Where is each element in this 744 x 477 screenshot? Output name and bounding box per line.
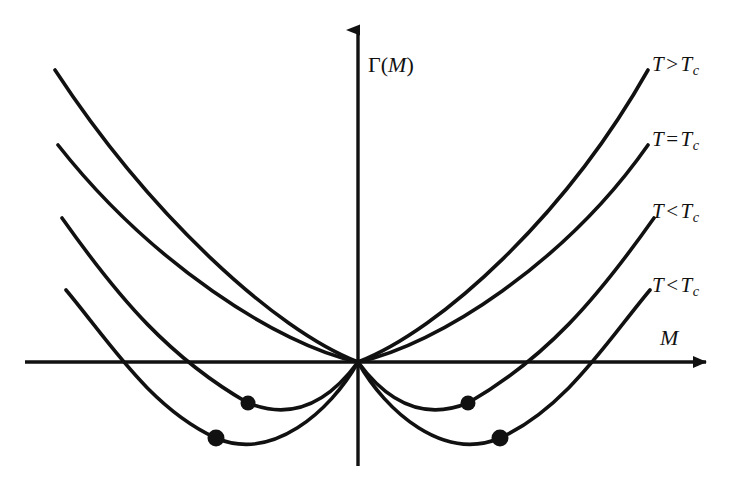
minimum-marker-left-shallow (241, 396, 256, 411)
curve-label-t-less-tc-shallow: T<Tc (652, 199, 700, 226)
y-axis-label: Γ(M) (368, 52, 414, 78)
label-subscript: c (693, 283, 700, 299)
curve-label-t-equal-tc: T=Tc (652, 127, 700, 154)
landau-free-energy-figure: Γ(M) M T>Tc T=Tc T<Tc T<Tc (0, 0, 744, 477)
curve-t-equal-tc (58, 145, 648, 362)
label-subscript: c (693, 62, 700, 78)
label-operator: = (664, 127, 680, 151)
x-axis-label: M (660, 325, 678, 351)
m-symbol: M (388, 52, 406, 77)
curves-group (55, 70, 654, 444)
label-tc: T (681, 52, 693, 76)
axes-group (25, 30, 706, 466)
label-operator: < (664, 273, 680, 297)
minimum-marker-right-deep (492, 430, 509, 447)
curve-label-t-less-tc-deep: T<Tc (652, 273, 700, 300)
label-t: T (652, 52, 664, 76)
label-t: T (652, 273, 664, 297)
label-t: T (652, 127, 664, 151)
x-axis-label-text: M (660, 325, 678, 350)
label-operator: < (664, 199, 680, 223)
paren-open: ( (381, 52, 388, 77)
paren-close: ) (406, 52, 413, 77)
label-tc: T (681, 199, 693, 223)
gamma-symbol: Γ (368, 52, 381, 77)
label-subscript: c (693, 137, 700, 153)
label-t: T (652, 199, 664, 223)
curve-label-t-greater-tc: T>Tc (652, 52, 700, 79)
minimum-marker-left-deep (208, 430, 225, 447)
minimum-marker-right-shallow (461, 396, 476, 411)
label-tc: T (681, 127, 693, 151)
label-tc: T (681, 273, 693, 297)
label-operator: > (664, 52, 680, 76)
label-subscript: c (693, 209, 700, 225)
